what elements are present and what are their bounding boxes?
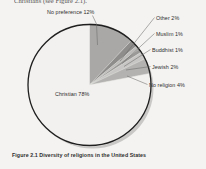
slice-label-christian: Christian 78%: [55, 91, 89, 97]
slice-label-jewish: Jewish 2%: [152, 64, 178, 70]
figure-container: Christians (see Figure 2.1). No preferen…: [0, 0, 206, 169]
pie-chart: [26, 22, 153, 149]
slice-label-no-preference: No preference 12%: [47, 9, 94, 15]
slice-label-other: Other 2%: [156, 15, 179, 21]
pie-chart-svg: [26, 22, 153, 149]
slice-label-no-religion: No religion 4%: [149, 82, 185, 88]
slice-label-muslim: Muslim 1%: [156, 31, 183, 37]
body-text-line: Christians (see Figure 2.1).: [14, 0, 87, 4]
figure-caption: Figure 2.1 Diversity of religions in the…: [12, 152, 146, 159]
slice-label-buddhist: Buddhist 1%: [152, 47, 183, 53]
